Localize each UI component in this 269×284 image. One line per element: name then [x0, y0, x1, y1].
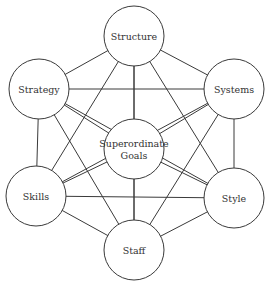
node-structure: Structure	[104, 6, 164, 66]
node-label: Staff	[123, 245, 147, 256]
node-label: Style	[222, 193, 247, 204]
node-label: Structure	[111, 31, 158, 42]
node-label: Systems	[214, 84, 254, 95]
node-label: Skills	[23, 191, 49, 202]
node-label: Strategy	[18, 84, 60, 95]
node-style: Style	[204, 168, 264, 228]
node-label: Superordinate	[99, 138, 169, 149]
seven-s-diagram: StructureStrategySystemsSuperordinateGoa…	[0, 0, 269, 284]
node-staff: Staff	[104, 220, 164, 280]
node-skills: Skills	[6, 166, 66, 226]
node-strategy: Strategy	[9, 59, 69, 119]
node-systems: Systems	[204, 59, 264, 119]
node-label: Goals	[121, 150, 148, 161]
nodes: StructureStrategySystemsSuperordinateGoa…	[6, 6, 264, 280]
